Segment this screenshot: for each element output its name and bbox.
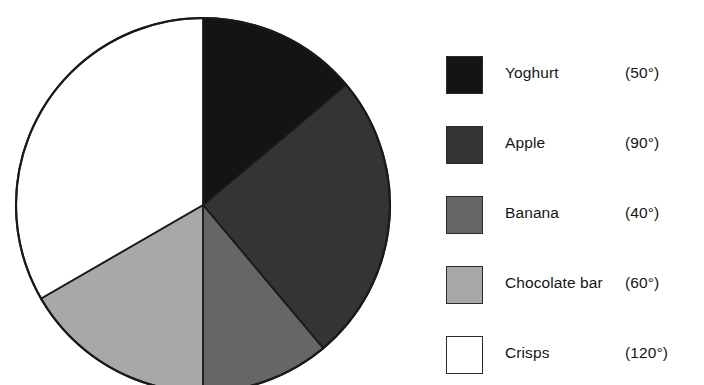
- legend-swatch-banana: [446, 196, 483, 234]
- legend-value-chocolate-bar: (60°): [625, 274, 659, 292]
- legend-label-chocolate-bar: Chocolate bar: [505, 274, 603, 292]
- legend-swatch-chocolate-bar: [446, 266, 483, 304]
- legend-item-yoghurt: Yoghurt (50°): [446, 52, 696, 122]
- pie-chart-plot-area: [0, 0, 420, 385]
- legend-label-yoghurt: Yoghurt: [505, 64, 559, 82]
- legend-value-apple: (90°): [625, 134, 659, 152]
- legend-item-crisps: Crisps (120°): [446, 332, 696, 385]
- legend-swatch-yoghurt: [446, 56, 483, 94]
- legend-item-apple: Apple (90°): [446, 122, 696, 192]
- pie-chart-figure: Yoghurt (50°) Apple (90°) Banana (40°) C…: [0, 0, 704, 385]
- chart-legend: Yoghurt (50°) Apple (90°) Banana (40°) C…: [446, 52, 696, 385]
- legend-swatch-crisps: [446, 336, 483, 374]
- pie-slice-group: [16, 18, 390, 385]
- legend-label-banana: Banana: [505, 204, 559, 222]
- pie-chart-svg: [0, 0, 420, 385]
- legend-value-banana: (40°): [625, 204, 659, 222]
- legend-label-apple: Apple: [505, 134, 545, 152]
- legend-item-banana: Banana (40°): [446, 192, 696, 262]
- legend-value-crisps: (120°): [625, 344, 668, 362]
- legend-item-chocolate-bar: Chocolate bar (60°): [446, 262, 696, 332]
- legend-swatch-apple: [446, 126, 483, 164]
- legend-label-crisps: Crisps: [505, 344, 550, 362]
- legend-value-yoghurt: (50°): [625, 64, 659, 82]
